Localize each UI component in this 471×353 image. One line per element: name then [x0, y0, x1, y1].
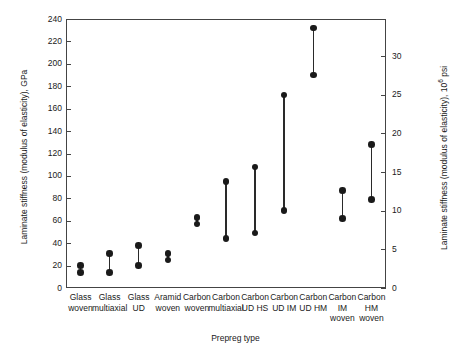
- y-axis-left-tick-label: 240: [48, 15, 62, 24]
- y-axis-left-tick-mark: [66, 109, 71, 110]
- range-connector-bar: [283, 95, 285, 210]
- y-axis-right-tick-mark: [381, 133, 386, 134]
- y-axis-right-title: Laminate stiffness (modulus of elasticit…: [437, 48, 449, 268]
- y-axis-left-tick-mark: [66, 86, 71, 87]
- y-axis-left-tick-mark: [66, 131, 71, 132]
- y-axis-right-title-exponent: 6: [437, 79, 444, 83]
- y-axis-left-tick-mark: [66, 41, 71, 42]
- y-axis-left-tick-label: 180: [48, 82, 62, 91]
- data-point-low: [339, 215, 346, 222]
- y-axis-right-tick-mark: [381, 288, 386, 289]
- y-axis-left-tick-mark: [66, 243, 71, 244]
- y-axis-left-tick-mark: [66, 154, 71, 155]
- y-axis-left-tick-label: 40: [53, 239, 62, 248]
- y-axis-right-title-text: Laminate stiffness (modulus of elasticit…: [439, 83, 449, 250]
- x-axis-category-labels: GlasswovenGlassmultiaxialGlassUDAramidwo…: [0, 292, 471, 332]
- data-point-high: [223, 178, 230, 185]
- chart-figure: 020406080100120140160180200220240 051015…: [0, 0, 471, 353]
- y-axis-left-tick-mark: [66, 176, 71, 177]
- y-axis-left-tick-label: 60: [53, 216, 62, 225]
- data-point-high: [194, 214, 201, 221]
- x-axis-category-label: CarbonHMwoven: [341, 292, 401, 324]
- y-axis-right-tick-label: 30: [392, 52, 401, 61]
- data-point-low: [310, 72, 317, 79]
- y-axis-left-tick-mark: [66, 64, 71, 65]
- range-connector-bar: [225, 182, 227, 239]
- y-axis-left-tick-label: 20: [53, 261, 62, 270]
- x-axis-category-label-line: HM: [341, 303, 401, 314]
- y-axis-right-tick-label: 10: [392, 206, 401, 215]
- data-point-low: [223, 235, 230, 242]
- data-point-high: [135, 242, 142, 249]
- y-axis-right-tick-mark: [381, 211, 386, 212]
- y-axis-right-tick-label: 20: [392, 129, 401, 138]
- x-axis-category-label-line: woven: [341, 313, 401, 324]
- y-axis-left-tick-label: 140: [48, 127, 62, 136]
- plot-area: [66, 19, 386, 288]
- data-point-high: [368, 141, 375, 148]
- data-point-high: [165, 250, 172, 257]
- y-axis-right-tick-label: 15: [392, 168, 401, 177]
- data-point-high: [106, 250, 113, 257]
- y-axis-right-tick-label: 5: [392, 245, 397, 254]
- data-point-low: [77, 269, 84, 276]
- x-axis-title: Prepreg type: [0, 333, 471, 343]
- y-axis-left-tick-mark: [66, 221, 71, 222]
- y-axis-left-tick-mark: [66, 198, 71, 199]
- y-axis-left-tick-label: 200: [48, 59, 62, 68]
- data-point-low: [106, 269, 113, 276]
- data-point-high: [339, 187, 346, 194]
- data-point-low: [368, 196, 375, 203]
- y-axis-left-tick-mark: [66, 266, 71, 267]
- y-axis-left-tick-label: 120: [48, 149, 62, 158]
- data-point-high: [310, 25, 317, 32]
- x-axis-category-label-line: Carbon: [341, 292, 401, 303]
- data-point-high: [77, 262, 84, 269]
- y-axis-right-tick-mark: [381, 172, 386, 173]
- y-axis-left-tick-label: 80: [53, 194, 62, 203]
- range-connector-bar: [313, 28, 315, 75]
- y-axis-left-tick-label: 220: [48, 37, 62, 46]
- range-connector-bar: [254, 167, 256, 233]
- y-axis-right-tick-mark: [381, 249, 386, 250]
- data-point-low: [135, 262, 142, 269]
- y-axis-right-title-unit: psi: [439, 66, 449, 79]
- y-axis-right-tick-mark: [381, 56, 386, 57]
- y-axis-left-tick-label: 100: [48, 171, 62, 180]
- range-connector-bar: [371, 145, 373, 200]
- y-axis-left-tick-label: 160: [48, 104, 62, 113]
- y-axis-right-tick-mark: [381, 95, 386, 96]
- y-axis-right-tick-label: 25: [392, 90, 401, 99]
- y-axis-left-title: Laminate stiffness (modulus of elasticit…: [19, 47, 29, 267]
